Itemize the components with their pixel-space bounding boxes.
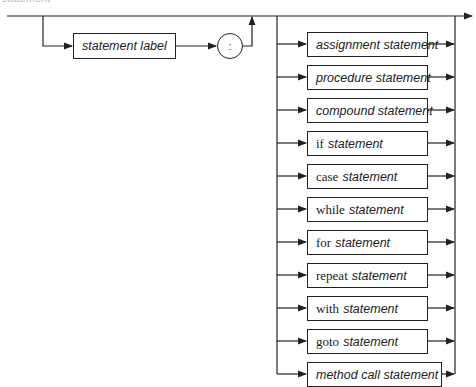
keyword: if [316,136,324,152]
alternative-box: compound statement [307,98,428,123]
alternative-label: statement [343,302,398,316]
alternative-label: statement [349,203,404,217]
keyword: while [316,202,345,218]
keyword: repeat [316,268,348,284]
alternative-box: procedure statement [307,65,428,90]
statement-label-text: statement label [82,39,167,53]
alternative-box: gotostatement [307,329,428,354]
alternative-label: method call statement [316,368,438,382]
alternative-label: procedure statement [316,71,431,85]
keyword: case [316,169,338,185]
alternative-box: withstatement [307,296,428,321]
alternative-box: casestatement [307,164,428,189]
alternative-label: assignment statement [316,38,438,52]
alternative-box: ifstatement [307,131,428,156]
keyword: for [316,235,331,251]
alternative-box: whilestatement [307,197,428,222]
keyword: with [316,301,339,317]
keyword: goto [316,334,339,350]
alternative-label: statement [335,236,390,250]
alternative-label: statement [352,269,407,283]
alternative-box: assignment statement [307,32,428,57]
alternative-label: statement [328,137,383,151]
alternative-label: compound statement [316,104,433,118]
colon-separator: : [217,33,243,59]
alternative-label: statement [343,335,398,349]
alternative-label: statement [342,170,397,184]
alternative-box: repeatstatement [307,263,428,288]
alternative-box: forstatement [307,230,428,255]
alternative-box: method call statement [307,362,442,387]
statement-label-box: statement label [73,33,176,59]
